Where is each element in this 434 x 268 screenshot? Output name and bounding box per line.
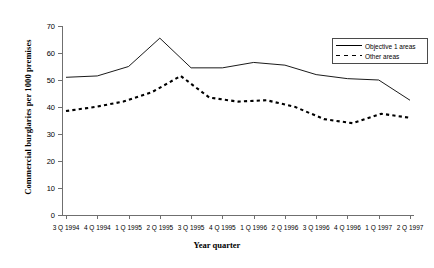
- x-axis-tick: [222, 215, 223, 219]
- x-axis-tick: [97, 215, 98, 219]
- x-axis-tick: [129, 215, 130, 219]
- x-axis-tick: [347, 215, 348, 219]
- x-axis-tick-label: 3 Q 1994: [53, 224, 80, 231]
- x-axis-tick: [160, 215, 161, 219]
- x-axis-tick: [191, 215, 192, 219]
- y-axis-tick-label: 0: [51, 211, 55, 220]
- x-axis-tick: [254, 215, 255, 219]
- y-axis-tick-label: 50: [47, 76, 55, 85]
- x-axis-tick-label: 4 Q 1994: [84, 224, 111, 231]
- legend-item-objective-1-areas: Objective 1 areas: [336, 41, 424, 51]
- y-axis-tick: [58, 26, 62, 27]
- chart-container: Commercial burglaries per 1000 premises …: [0, 0, 434, 268]
- y-axis-tick-label: 40: [47, 103, 55, 112]
- x-axis-tick-label: 1 Q 1996: [240, 224, 267, 231]
- series-line: [66, 76, 410, 123]
- x-axis-tick-label: 1 Q 1995: [115, 224, 142, 231]
- y-axis-tick: [58, 53, 62, 54]
- legend-item-other-areas: Other areas: [336, 51, 424, 61]
- x-axis-tick: [66, 215, 67, 219]
- y-axis-tick: [58, 161, 62, 162]
- x-axis-tick-label: 2 Q 1996: [272, 224, 299, 231]
- x-axis-tick-label: 3 Q 1995: [178, 224, 205, 231]
- x-axis-tick-label: 2 Q 1997: [397, 224, 424, 231]
- legend: Objective 1 areas Other areas: [332, 38, 428, 64]
- y-axis-tick: [58, 134, 62, 135]
- y-axis-tick-label: 10: [47, 184, 55, 193]
- y-axis-tick: [58, 80, 62, 81]
- x-axis-tick-label: 4 Q 1995: [209, 224, 236, 231]
- y-axis-title: Commercial burglaries per 1000 premises: [23, 17, 33, 217]
- x-axis-title: Year quarter: [0, 240, 434, 250]
- y-axis-tick-label: 60: [47, 49, 55, 58]
- y-axis-tick-label: 30: [47, 130, 55, 139]
- x-axis-tick-label: 3 Q 1996: [303, 224, 330, 231]
- legend-label: Other areas: [365, 53, 399, 60]
- x-axis-tick: [379, 215, 380, 219]
- y-axis-tick-label: 70: [47, 22, 55, 31]
- y-axis-tick: [58, 215, 62, 216]
- x-axis-line: [62, 215, 414, 216]
- x-axis-tick-label: 1 Q 1997: [365, 224, 392, 231]
- legend-label: Objective 1 areas: [365, 43, 416, 50]
- y-axis-tick: [58, 188, 62, 189]
- x-axis-tick-label: 4 Q 1996: [334, 224, 361, 231]
- y-axis-tick: [58, 107, 62, 108]
- x-axis-tick: [285, 215, 286, 219]
- x-axis-tick-label: 2 Q 1995: [146, 224, 173, 231]
- legend-swatch-solid-line-icon: [336, 43, 362, 49]
- y-axis-line: [62, 26, 63, 215]
- x-axis-tick: [316, 215, 317, 219]
- legend-swatch-dashed-line-icon: [336, 53, 362, 59]
- y-axis-tick-label: 20: [47, 157, 55, 166]
- x-axis-tick: [410, 215, 411, 219]
